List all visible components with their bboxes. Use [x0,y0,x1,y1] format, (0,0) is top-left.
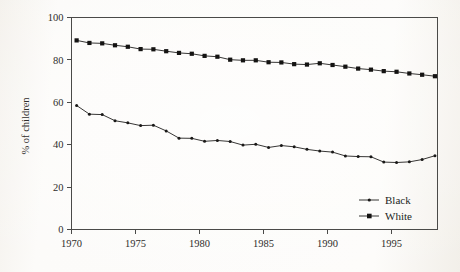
data-point [395,161,398,164]
x-tick-label: 1980 [189,238,210,249]
data-point [87,41,91,45]
data-point [293,145,296,148]
y-tick-label: 40 [53,139,64,150]
data-point [266,60,270,64]
data-point [267,146,270,149]
data-point [101,113,104,116]
data-point [100,41,104,45]
data-point [164,49,168,53]
data-point [178,137,181,140]
data-point [241,144,244,147]
series-line [77,105,435,162]
data-point [279,60,283,64]
data-point [254,143,257,146]
data-point [254,58,258,62]
data-point [152,124,155,127]
data-point [407,71,411,75]
x-tick-labels: 197019751980198519901995 [61,238,402,249]
data-point [356,66,360,70]
data-point [292,62,296,66]
data-point [382,161,385,164]
y-axis-title: % of children [20,97,31,155]
x-tick-label: 1970 [61,238,82,249]
line-chart: 020406080100 197019751980198519901995 % … [0,0,460,272]
x-tick-label: 1990 [317,238,338,249]
y-tick-label: 80 [53,55,64,66]
legend-marker [367,214,372,219]
data-point [203,140,206,143]
data-point [433,74,437,78]
data-point [114,119,117,122]
data-point [88,113,91,116]
y-tick-label: 0 [58,224,63,235]
y-tick-label: 100 [48,12,64,23]
data-point [305,62,309,66]
data-point [318,61,322,65]
y-tick-labels: 020406080100 [48,12,64,235]
plot-axes [67,18,438,235]
legend-marker [368,198,371,201]
data-point [190,137,193,140]
data-point [344,154,347,157]
data-point [126,121,129,124]
data-point [126,45,130,49]
data-point [75,104,78,107]
y-tick-marks [67,18,72,230]
data-point [139,47,143,51]
data-point [75,38,79,42]
series-white [75,38,438,78]
data-point [305,148,308,151]
data-point [382,69,386,73]
chart-figure: 020406080100 197019751980198519901995 % … [0,0,460,272]
data-point [177,51,181,55]
data-point [202,54,206,58]
x-tick-label: 1995 [381,238,402,249]
data-point [369,155,372,158]
data-point [420,73,424,77]
data-point [330,63,334,67]
data-point [280,144,283,147]
x-tick-label: 1985 [253,238,274,249]
legend-label: Black [385,194,411,206]
data-point [190,52,194,56]
data-point [394,70,398,74]
data-point [215,55,219,59]
data-point [165,129,168,132]
data-point [421,158,424,161]
legend-entry-white: White [359,210,412,222]
data-point [113,43,117,47]
data-point [216,139,219,142]
data-point [228,58,232,62]
y-tick-label: 60 [53,97,64,108]
y-tick-label: 20 [53,182,64,193]
data-point [369,68,373,72]
data-point [433,154,436,157]
data-point [343,65,347,69]
data-point [229,140,232,143]
data-point [139,124,142,127]
legend-label: White [385,210,412,222]
x-tick-marks [72,230,392,235]
chart-legend: BlackWhite [359,194,412,222]
data-point [318,150,321,153]
axis-frame [72,18,438,230]
data-series-layer [75,38,438,164]
data-point [408,160,411,163]
data-point [331,151,334,154]
x-tick-label: 1975 [125,238,146,249]
data-point [357,155,360,158]
data-point [241,58,245,62]
series-black [75,104,436,164]
legend-entry-black: Black [359,194,411,206]
data-point [151,47,155,51]
